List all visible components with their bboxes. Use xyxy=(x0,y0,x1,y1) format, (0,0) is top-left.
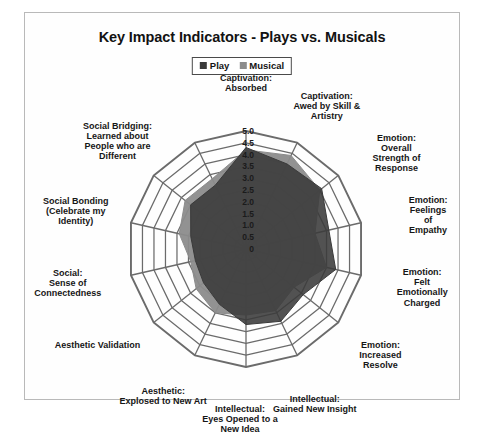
radial-tick-label: 0.5 xyxy=(242,232,254,242)
radial-tick-label: 3.5 xyxy=(242,161,254,171)
radial-tick-label: 0 xyxy=(249,244,254,254)
radial-tick-label: 2.0 xyxy=(242,197,254,207)
radial-tick-label: 5.0 xyxy=(242,126,254,136)
chart-frame: Key Impact Indicators - Plays vs. Musica… xyxy=(24,12,460,400)
radial-tick-label: 2.5 xyxy=(242,185,254,195)
radial-tick-label: 4.5 xyxy=(242,138,254,148)
radial-tick-label: 4.0 xyxy=(242,150,254,160)
axis-label-7: Intellectual: Eyes Opened to a New Idea xyxy=(202,404,278,432)
radial-tick-label: 1.0 xyxy=(242,220,254,230)
radial-tick-label: 3.0 xyxy=(242,173,254,183)
radial-tick-label: 1.5 xyxy=(242,209,254,219)
radar-plot xyxy=(25,13,461,401)
